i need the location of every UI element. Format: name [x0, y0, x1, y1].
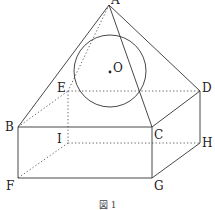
edge-I-F [18, 143, 68, 178]
label-G: G [154, 179, 164, 193]
label-A: A [110, 0, 120, 7]
edge-C-D [152, 91, 200, 127]
figure-1-diagram: A B C D E F G H I O 図 1 [0, 0, 215, 210]
label-B: B [5, 120, 14, 134]
label-D: D [202, 81, 212, 95]
label-H: H [202, 136, 212, 150]
label-O: O [113, 61, 123, 75]
edge-G-H [152, 143, 200, 178]
visible-edges [18, 5, 200, 178]
hidden-edges [18, 5, 200, 178]
vertex-labels: A B C D E F G H I O [5, 0, 212, 193]
label-C: C [154, 128, 163, 142]
edge-B-E [18, 91, 68, 127]
center-point-O [109, 71, 112, 74]
edge-A-D [109, 5, 200, 91]
label-F: F [6, 179, 14, 193]
figure-caption: 図 1 [99, 200, 117, 210]
edge-A-E [68, 5, 109, 91]
label-I: I [57, 132, 62, 146]
edge-A-B [18, 5, 109, 127]
label-E: E [57, 81, 66, 95]
